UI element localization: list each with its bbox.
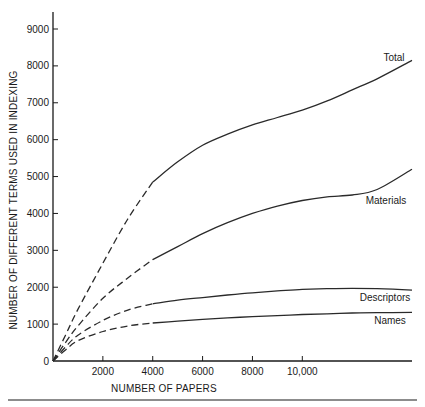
y-axis-title: NUMBER OF DIFFERENT TERMS USED IN INDEXI… bbox=[8, 70, 19, 329]
curve-names-solid bbox=[153, 312, 412, 323]
curve-materials-solid bbox=[153, 169, 412, 259]
curves bbox=[53, 60, 412, 361]
y-tick-label: 6000 bbox=[27, 134, 50, 145]
line-chart: 0100020003000400050006000700080009000 20… bbox=[0, 0, 425, 407]
y-tick-label: 7000 bbox=[27, 97, 50, 108]
series-label-descriptors: Descriptors bbox=[360, 292, 411, 303]
series-label-names: Names bbox=[374, 315, 406, 326]
x-ticks: 200040006000800010,000 bbox=[92, 356, 318, 377]
curve-total-solid bbox=[153, 60, 412, 182]
x-tick-label: 4000 bbox=[142, 366, 165, 377]
y-tick-label: 0 bbox=[43, 356, 49, 367]
y-tick-label: 2000 bbox=[27, 282, 50, 293]
curve-descriptors-dashed bbox=[53, 304, 153, 361]
x-tick-label: 10,000 bbox=[287, 366, 318, 377]
y-tick-label: 8000 bbox=[27, 60, 50, 71]
x-tick-label: 8000 bbox=[241, 366, 264, 377]
x-tick-label: 2000 bbox=[92, 366, 115, 377]
x-axis-title: NUMBER OF PAPERS bbox=[111, 383, 217, 394]
y-tick-label: 3000 bbox=[27, 245, 50, 256]
series-label-total: Total bbox=[383, 52, 404, 63]
series-label-materials: Materials bbox=[366, 195, 407, 206]
curve-materials-dashed bbox=[53, 260, 153, 361]
y-tick-label: 5000 bbox=[27, 171, 50, 182]
x-tick-label: 6000 bbox=[191, 366, 214, 377]
y-tick-label: 4000 bbox=[27, 208, 50, 219]
y-tick-label: 9000 bbox=[27, 24, 50, 35]
y-tick-label: 1000 bbox=[27, 319, 50, 330]
curve-total-dashed bbox=[53, 182, 153, 361]
